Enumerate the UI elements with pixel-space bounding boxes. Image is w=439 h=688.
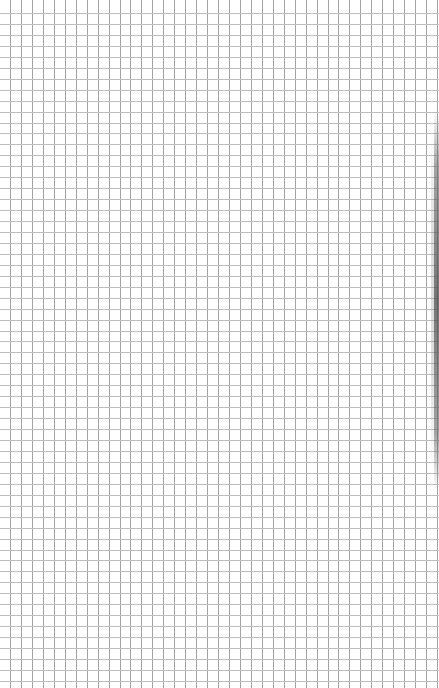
vertical-grid-lines — [11, 0, 438, 688]
grid-lines — [0, 0, 439, 688]
graph-paper-sheet — [0, 0, 439, 688]
page-edge-shadow — [434, 110, 439, 490]
